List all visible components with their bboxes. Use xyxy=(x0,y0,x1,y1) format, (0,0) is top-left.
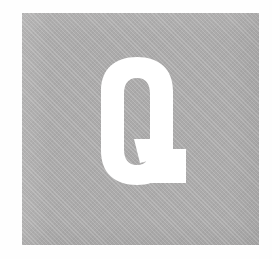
letter-glyph-q xyxy=(22,13,259,245)
letter-tile xyxy=(22,13,259,245)
page-canvas xyxy=(0,0,272,259)
